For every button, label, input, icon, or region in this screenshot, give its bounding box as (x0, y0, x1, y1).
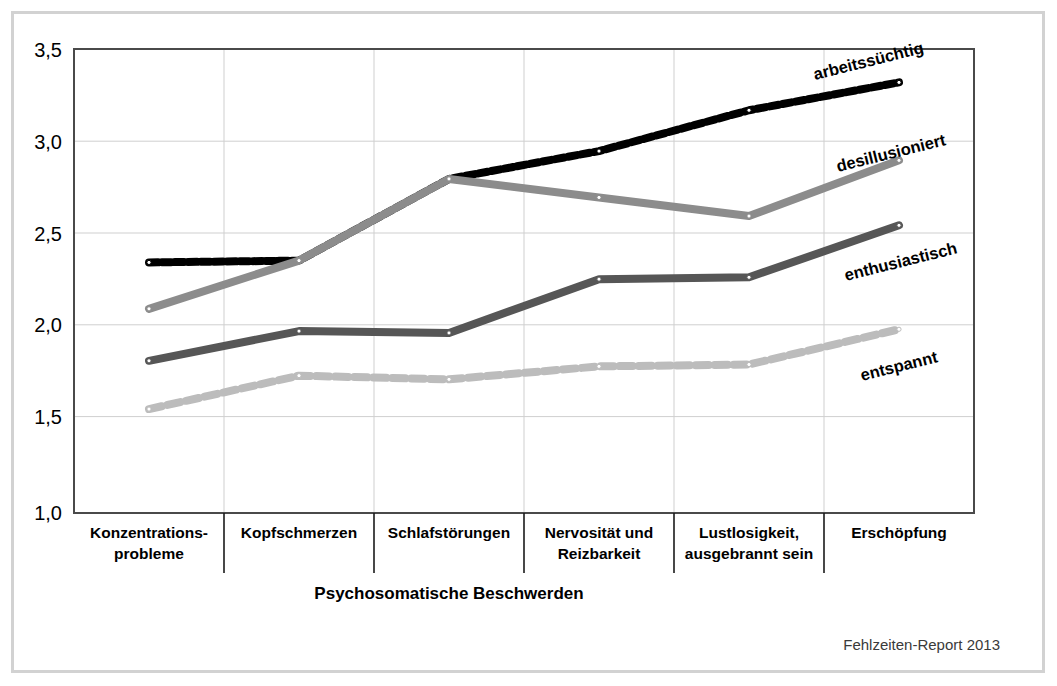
data-point (597, 277, 601, 281)
y-tick-label: 2,0 (34, 314, 62, 336)
x-axis-title: Psychosomatische Beschwerden (314, 584, 583, 603)
category-label: Lustlosigkeit, (699, 524, 799, 541)
line-chart: 3,5 3,0 2,5 2,0 1,5 1,0 Konzentrations- … (0, 0, 1057, 686)
source-note: Fehlzeiten-Report 2013 (843, 636, 1000, 653)
y-tick-label: 3,5 (34, 39, 62, 61)
category-label-line2: ausgebrannt sein (685, 545, 813, 562)
data-point (597, 364, 601, 368)
data-point (147, 307, 151, 311)
data-point (897, 80, 901, 84)
category-label-line2: probleme (114, 545, 184, 562)
data-point (147, 359, 151, 363)
data-point (297, 329, 301, 333)
category-label: Konzentrations- (90, 524, 208, 541)
data-point (747, 275, 751, 279)
category-label: Erschöpfung (851, 524, 947, 541)
data-point (447, 331, 451, 335)
y-tick-label: 2,5 (34, 223, 62, 245)
data-point (747, 108, 751, 112)
y-tick-label: 1,0 (34, 502, 62, 524)
category-label: Schlafstörungen (388, 524, 510, 541)
data-point (747, 362, 751, 366)
y-axis-tick-labels: 3,5 3,0 2,5 2,0 1,5 1,0 (34, 39, 62, 524)
y-tick-label: 1,5 (34, 406, 62, 428)
chart-figure: 3,5 3,0 2,5 2,0 1,5 1,0 Konzentrations- … (0, 0, 1057, 686)
data-point (897, 223, 901, 227)
data-point (597, 149, 601, 153)
category-label-line2: Reizbarkeit (558, 545, 641, 562)
data-point (447, 177, 451, 181)
data-point (597, 195, 601, 199)
data-point (447, 377, 451, 381)
category-label: Kopfschmerzen (241, 524, 357, 541)
data-point (747, 214, 751, 218)
category-separators (224, 513, 824, 573)
data-point (147, 260, 151, 264)
data-point (297, 258, 301, 262)
category-label: Nervosität und (545, 524, 654, 541)
x-axis-category-labels: Konzentrations- probleme Kopfschmerzen S… (90, 524, 947, 562)
y-tick-label: 3,0 (34, 131, 62, 153)
data-point (147, 407, 151, 411)
data-point (297, 374, 301, 378)
data-point (897, 327, 901, 331)
